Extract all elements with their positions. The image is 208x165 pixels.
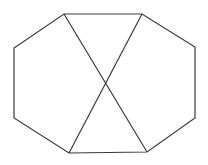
diagonal-top-right-to-bottom-left: [69, 14, 142, 153]
octagon-diagram: [0, 0, 208, 165]
octagon-outline: [14, 14, 195, 153]
